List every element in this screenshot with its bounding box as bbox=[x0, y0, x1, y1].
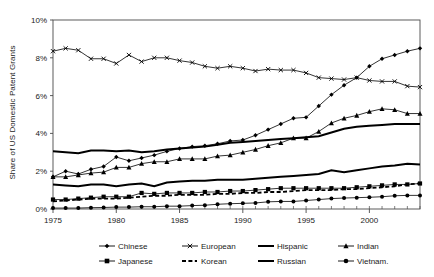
data-point-marker bbox=[216, 202, 220, 206]
data-point-marker bbox=[127, 205, 131, 209]
series-european bbox=[51, 46, 422, 89]
y-axis-tick-label: 0% bbox=[35, 205, 47, 214]
data-point-marker bbox=[329, 120, 334, 125]
data-point-marker bbox=[139, 59, 143, 63]
data-point-marker bbox=[105, 259, 110, 264]
data-point-marker bbox=[405, 193, 409, 197]
data-point-marker bbox=[279, 199, 283, 203]
data-point-marker bbox=[418, 46, 422, 50]
series-vietnam bbox=[51, 193, 422, 210]
data-point-marker bbox=[114, 61, 118, 65]
x-axis-tick-label: 1990 bbox=[234, 216, 252, 225]
data-point-marker bbox=[253, 133, 257, 137]
data-point-marker bbox=[63, 169, 67, 173]
legend-item-korean[interactable]: Korean bbox=[182, 257, 227, 266]
data-point-marker bbox=[392, 53, 396, 57]
y-axis-tick-label: 4% bbox=[35, 129, 47, 138]
data-point-marker bbox=[266, 187, 270, 191]
data-point-marker bbox=[152, 205, 156, 209]
series-line bbox=[53, 195, 420, 208]
legend-label: Indian bbox=[357, 242, 379, 251]
series-korean bbox=[53, 183, 420, 201]
data-point-marker bbox=[279, 186, 283, 190]
x-axis-tick-label: 1995 bbox=[297, 216, 315, 225]
data-point-marker bbox=[278, 140, 283, 145]
data-point-marker bbox=[418, 193, 422, 197]
data-point-marker bbox=[140, 205, 144, 209]
legend-item-european[interactable]: European bbox=[182, 242, 236, 251]
y-axis-tick-label: 10% bbox=[31, 16, 47, 25]
data-point-marker bbox=[105, 244, 110, 249]
series-line bbox=[53, 48, 420, 87]
data-point-marker bbox=[253, 188, 257, 192]
data-point-marker bbox=[102, 205, 106, 209]
series-hispanic bbox=[53, 124, 420, 153]
data-point-marker bbox=[203, 190, 207, 194]
chart-container: Share of US Domestic Patent Grants 0%2%4… bbox=[0, 0, 434, 277]
data-point-marker bbox=[266, 127, 270, 131]
data-point-marker bbox=[316, 129, 321, 134]
data-point-marker bbox=[304, 198, 308, 202]
legend-label: European bbox=[201, 242, 236, 251]
data-point-marker bbox=[253, 201, 257, 205]
legend-label: Russian bbox=[277, 257, 306, 266]
legend-label: Japanese bbox=[118, 257, 153, 266]
series-line bbox=[53, 164, 420, 187]
data-point-marker bbox=[405, 49, 409, 53]
y-axis-tick-label: 8% bbox=[35, 54, 47, 63]
data-point-marker bbox=[64, 206, 68, 210]
legend-item-vietnam[interactable]: Vietnam. bbox=[338, 257, 388, 266]
series-line bbox=[53, 183, 420, 201]
x-axis-tick-label: 1980 bbox=[107, 216, 125, 225]
data-point-marker bbox=[317, 198, 321, 202]
data-point-marker bbox=[114, 205, 118, 209]
data-point-marker bbox=[291, 199, 295, 203]
data-point-marker bbox=[342, 196, 346, 200]
data-point-marker bbox=[279, 122, 283, 126]
data-point-marker bbox=[344, 259, 349, 264]
data-point-marker bbox=[393, 194, 397, 198]
line-chart-plot: 0%2%4%6%8%10%197519801985199019952000Chi… bbox=[0, 0, 434, 277]
legend-item-indian[interactable]: Indian bbox=[338, 242, 379, 251]
x-axis-tick-label: 2000 bbox=[360, 216, 378, 225]
y-axis-tick-label: 2% bbox=[35, 167, 47, 176]
data-point-marker bbox=[380, 57, 384, 61]
legend-item-russian[interactable]: Russian bbox=[258, 257, 306, 266]
data-point-marker bbox=[127, 159, 131, 163]
x-axis-tick-label: 1985 bbox=[171, 216, 189, 225]
data-point-marker bbox=[380, 195, 384, 199]
legend-label: Chinese bbox=[118, 242, 148, 251]
series-russian bbox=[53, 164, 420, 187]
data-point-marker bbox=[190, 204, 194, 208]
legend-label: Hispanic bbox=[277, 242, 308, 251]
data-point-marker bbox=[241, 201, 245, 205]
data-point-marker bbox=[355, 196, 359, 200]
legend-item-hispanic[interactable]: Hispanic bbox=[258, 242, 308, 251]
data-point-marker bbox=[203, 203, 207, 207]
data-point-marker bbox=[266, 200, 270, 204]
data-point-marker bbox=[76, 206, 80, 210]
data-point-marker bbox=[228, 189, 232, 193]
legend-label: Korean bbox=[201, 257, 227, 266]
y-axis-tick-label: 6% bbox=[35, 92, 47, 101]
legend-item-chinese[interactable]: Chinese bbox=[99, 242, 148, 251]
data-point-marker bbox=[165, 204, 169, 208]
data-point-marker bbox=[178, 204, 182, 208]
legend-item-japanese[interactable]: Japanese bbox=[99, 257, 153, 266]
legend-label: Vietnam. bbox=[357, 257, 388, 266]
data-point-marker bbox=[367, 195, 371, 199]
data-point-marker bbox=[152, 153, 156, 157]
data-point-marker bbox=[291, 186, 295, 190]
data-point-marker bbox=[89, 206, 93, 210]
data-point-marker bbox=[165, 191, 169, 195]
chart-legend: ChineseEuropeanHispanicIndianJapaneseKor… bbox=[99, 242, 388, 266]
data-point-marker bbox=[127, 53, 131, 57]
data-point-marker bbox=[139, 191, 143, 195]
data-point-marker bbox=[139, 156, 143, 160]
data-point-marker bbox=[291, 116, 295, 120]
series-line bbox=[53, 124, 420, 153]
data-point-marker bbox=[51, 206, 55, 210]
data-point-marker bbox=[329, 197, 333, 201]
data-point-marker bbox=[228, 202, 232, 206]
x-axis-tick-label: 1975 bbox=[44, 216, 62, 225]
